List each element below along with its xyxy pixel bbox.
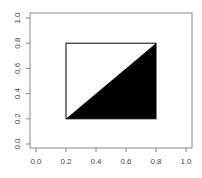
y-tick-label: 0.4: [13, 87, 22, 99]
x-tick-label: 0.0: [30, 157, 42, 166]
x-axis: 0.00.20.40.60.81.0: [30, 148, 192, 166]
x-tick-label: 0.4: [90, 157, 102, 166]
plot-shapes: [66, 43, 156, 119]
y-axis: 0.00.20.40.60.81.0: [13, 12, 30, 150]
y-tick-label: 0.6: [13, 62, 22, 74]
y-tick-label: 0.2: [13, 113, 22, 125]
x-tick-label: 1.0: [180, 157, 192, 166]
chart: 0.00.20.40.60.81.0 0.00.20.40.60.81.0: [0, 0, 202, 178]
x-tick-label: 0.6: [120, 157, 132, 166]
x-tick-label: 0.8: [150, 157, 162, 166]
y-tick-label: 0.0: [13, 138, 22, 150]
y-tick-label: 1.0: [13, 12, 22, 24]
filled-triangle: [66, 43, 156, 119]
y-tick-label: 0.8: [13, 37, 22, 49]
plot-box: [30, 13, 192, 148]
x-tick-label: 0.2: [60, 157, 72, 166]
